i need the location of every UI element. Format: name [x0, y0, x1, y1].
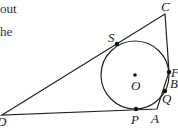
- label-d: D: [0, 114, 7, 129]
- point-p: [134, 107, 138, 111]
- geometry-diagram: C S O F B Q P A D: [0, 0, 178, 134]
- label-o: O: [131, 78, 141, 93]
- label-a: A: [150, 111, 159, 126]
- label-b: B: [170, 76, 178, 91]
- label-q: Q: [162, 91, 172, 106]
- quadrilateral-dcba: [2, 14, 169, 115]
- point-o: [133, 73, 137, 77]
- label-s: S: [108, 30, 115, 45]
- point-s: [115, 42, 119, 46]
- label-c: C: [161, 0, 170, 14]
- label-p: P: [130, 112, 139, 127]
